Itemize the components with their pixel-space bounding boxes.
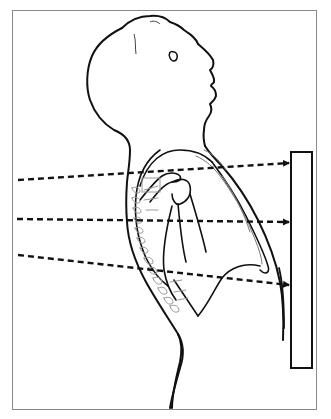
vertebra — [133, 207, 141, 213]
hairline-mark — [134, 34, 136, 54]
upper-beam-arrow — [18, 163, 289, 180]
humerus-shaft — [178, 194, 206, 262]
ear — [169, 51, 177, 61]
head-top-outline — [122, 16, 198, 44]
anterior-lung-line — [212, 162, 269, 273]
vertebra — [158, 287, 167, 294]
neck-front-outline — [205, 146, 283, 340]
humeral-head — [172, 179, 190, 204]
figure-caption — [0, 412, 331, 419]
vertebra — [170, 305, 179, 312]
vertebra — [153, 277, 162, 284]
vertebra — [135, 227, 143, 233]
patient-figure — [87, 16, 283, 408]
chest-xray-positioning-illustration — [0, 0, 331, 419]
hair-mark — [150, 21, 160, 24]
rib-stubs-upper — [144, 186, 158, 210]
vertebra — [164, 297, 173, 304]
facial-details — [134, 21, 160, 54]
film-plate — [291, 152, 312, 368]
diaphragm-outline — [198, 265, 260, 316]
face-profile — [198, 44, 216, 146]
